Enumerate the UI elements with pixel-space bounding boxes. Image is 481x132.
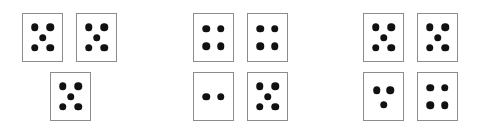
card-3-2	[417, 13, 458, 62]
dot-pip	[441, 102, 449, 110]
dot-pip	[380, 34, 388, 42]
dot-pip	[380, 101, 388, 109]
dot-pip	[426, 44, 434, 52]
dot-pip	[427, 84, 435, 92]
dot-pip	[388, 44, 396, 52]
group-3	[0, 0, 481, 132]
dot-pip	[386, 87, 394, 95]
dot-pip	[441, 84, 449, 92]
dot-pip	[372, 44, 380, 52]
dot-pip	[434, 34, 442, 42]
dot-pip	[426, 23, 434, 31]
card-3-4	[417, 72, 458, 121]
dot-card-board	[0, 0, 481, 132]
dot-pip	[442, 44, 450, 52]
card-3-3	[363, 72, 404, 121]
dot-pip	[373, 87, 381, 95]
dot-pip	[372, 23, 380, 31]
dot-pip	[442, 23, 450, 31]
card-3-1	[363, 13, 404, 62]
dot-pip	[388, 23, 396, 31]
dot-pip	[427, 102, 435, 110]
